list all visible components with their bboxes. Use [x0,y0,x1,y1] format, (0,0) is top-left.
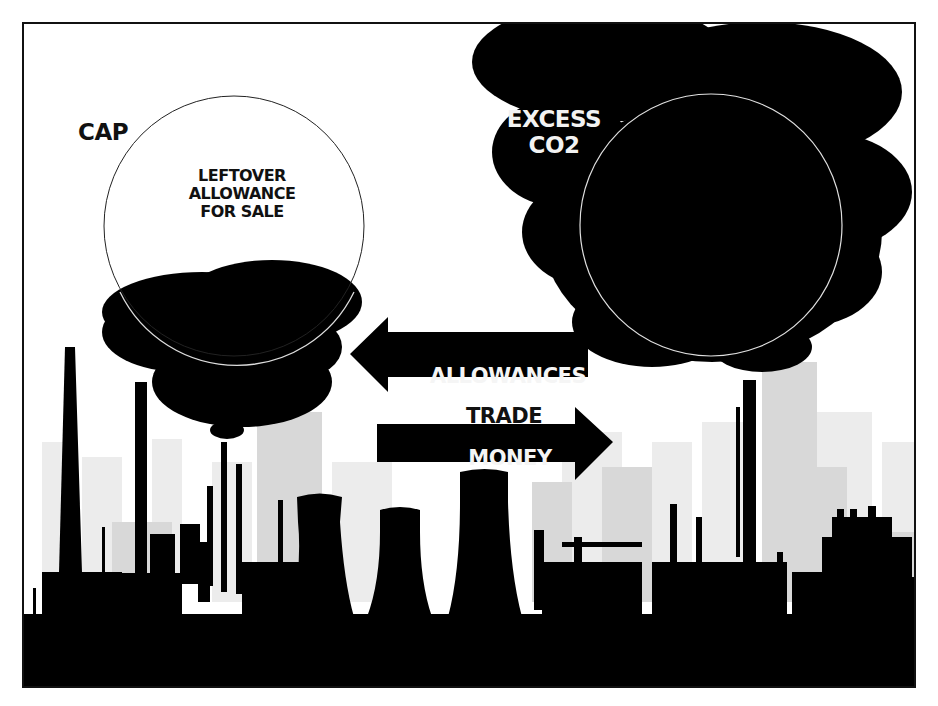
leftover-line-3: FOR SALE [172,203,312,221]
leftover-line-1: LEFTOVER [172,167,312,185]
excess-line-2: CO2 [494,133,614,159]
trade-label: TRADE [444,405,564,429]
illustration [24,24,916,688]
cap-label: CAP [78,120,128,146]
diagram-frame: CAP LEFTOVER ALLOWANCE FOR SALE EXCESS C… [22,22,916,688]
excess-co2-label: EXCESS CO2 [494,107,614,159]
money-arrow-label: MONEY [410,447,610,471]
allowances-arrow-label: ALLOWANCES [408,365,608,389]
right-smoke-cloud [472,24,912,372]
excess-line-1: EXCESS [494,107,614,133]
leftover-line-2: ALLOWANCE [172,185,312,203]
leftover-allowance-label: LEFTOVER ALLOWANCE FOR SALE [172,167,312,221]
